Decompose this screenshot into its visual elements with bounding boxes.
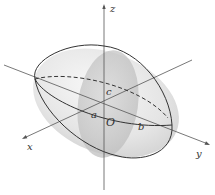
z-axis-arrow	[102, 4, 105, 9]
semi-axis-c-label: c	[106, 86, 112, 97]
ellipsoid-diagram: z x y O a b c	[0, 0, 215, 195]
y-axis-label: y	[195, 148, 202, 159]
y-axis-arrow	[205, 141, 211, 145]
semi-axis-b-label: b	[138, 121, 144, 132]
semi-axis-a-label: a	[91, 109, 97, 120]
origin-label: O	[106, 116, 115, 129]
x-axis-label: x	[27, 141, 33, 152]
z-axis-label: z	[109, 3, 116, 14]
diagram-canvas: z x y O a b c	[0, 0, 215, 195]
x-axis-arrow	[22, 135, 27, 139]
